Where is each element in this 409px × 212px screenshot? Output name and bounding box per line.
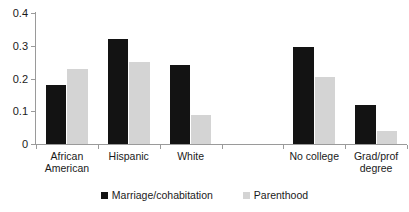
bar-marriage-cohabitation <box>355 105 375 144</box>
bar-parenthood <box>315 77 335 144</box>
legend-item-label: Marriage/cohabitation <box>112 190 213 201</box>
x-axis-tick <box>222 145 223 149</box>
x-axis-tick <box>407 145 408 149</box>
legend-item-label: Parenthood <box>254 190 308 201</box>
x-axis-category-label: Grad/prof degree <box>334 150 409 174</box>
bar-parenthood <box>129 62 149 144</box>
x-axis-tick <box>36 145 37 149</box>
bar-parenthood <box>67 69 87 144</box>
bar-parenthood <box>377 131 397 144</box>
light-square-icon <box>243 192 250 199</box>
y-axis-tick-label: 0.2 <box>0 74 28 85</box>
y-axis-tick-label: 0.1 <box>0 106 28 117</box>
y-axis-tick-label: 0.4 <box>0 8 28 19</box>
y-axis-tick-label: 0 <box>0 139 28 150</box>
plot-area <box>36 13 407 144</box>
chart-legend: Marriage/cohabitationParenthood <box>0 190 409 201</box>
dark-square-icon <box>101 192 108 199</box>
x-axis-category-label: White <box>149 150 233 162</box>
bar-marriage-cohabitation <box>293 47 313 144</box>
x-axis-tick <box>98 145 99 149</box>
x-axis-tick <box>160 145 161 149</box>
x-axis-tick <box>283 145 284 149</box>
legend-item[interactable]: Marriage/cohabitation <box>101 190 213 201</box>
x-axis-tick <box>345 145 346 149</box>
bar-marriage-cohabitation <box>108 39 128 144</box>
bar-parenthood <box>191 115 211 144</box>
bar-chart: 00.10.20.30.4 African AmericanHispanicWh… <box>0 0 409 212</box>
legend-item[interactable]: Parenthood <box>243 190 308 201</box>
y-axis-tick-label: 0.3 <box>0 41 28 52</box>
bar-marriage-cohabitation <box>170 65 190 144</box>
bar-marriage-cohabitation <box>46 85 66 144</box>
